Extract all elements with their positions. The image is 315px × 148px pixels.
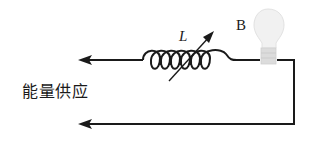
inductor-coil (143, 50, 237, 69)
bulb-label: B (236, 17, 246, 34)
light-bulb-icon (254, 9, 284, 64)
energy-supply-label: 能量供应 (22, 78, 88, 102)
circuit-drawing (0, 0, 315, 148)
variable-arrow-icon (169, 31, 214, 81)
inductor-label: L (179, 28, 187, 45)
circuit-diagram: 能量供应 L B (0, 0, 315, 148)
bottom-wire (78, 119, 295, 129)
top-wire (78, 55, 143, 65)
